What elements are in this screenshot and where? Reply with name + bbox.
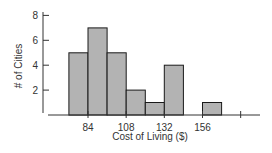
y-tick-label: 6 bbox=[32, 35, 38, 46]
histogram-bars bbox=[69, 28, 222, 115]
histogram-bar bbox=[107, 53, 126, 115]
histogram-chart: 2468 84108132156 Cost of Living ($) # of… bbox=[0, 0, 272, 153]
x-axis-title: Cost of Living ($) bbox=[112, 131, 188, 142]
y-tick-label: 2 bbox=[32, 85, 38, 96]
histogram-bar bbox=[203, 103, 222, 116]
histogram-bar bbox=[126, 90, 145, 115]
x-tick-label: 156 bbox=[194, 122, 211, 133]
histogram-bar bbox=[88, 28, 107, 115]
y-axis-title: # of Cities bbox=[13, 44, 24, 88]
y-tick-label: 4 bbox=[32, 60, 38, 71]
y-axis-ticks: 2468 bbox=[32, 10, 49, 96]
y-tick-label: 8 bbox=[32, 10, 38, 21]
x-tick-label: 84 bbox=[82, 122, 94, 133]
histogram-bar bbox=[164, 65, 183, 115]
histogram-bar bbox=[69, 53, 88, 115]
histogram-bar bbox=[145, 103, 164, 116]
